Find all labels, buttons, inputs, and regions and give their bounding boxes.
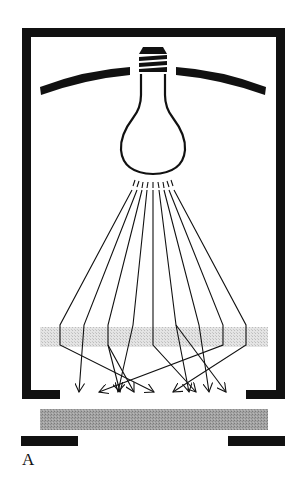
optical-setup-diagram — [0, 0, 303, 479]
ray-2 — [79, 190, 137, 392]
bulb-screw-base — [139, 47, 167, 72]
emission-ticks — [133, 180, 173, 188]
light-rays — [60, 190, 246, 392]
light-bulb — [121, 47, 185, 174]
frame-left-wall — [22, 28, 31, 399]
sample-plate — [40, 409, 268, 430]
stage-right-bar — [228, 436, 285, 446]
frame-right-wall — [276, 28, 285, 399]
ray-1 — [60, 190, 154, 392]
bulb-glass — [121, 74, 185, 174]
reflector-left-wing — [40, 67, 130, 95]
reflector-right-wing — [176, 67, 266, 95]
stage-left-bar — [21, 436, 78, 446]
ray-6 — [159, 190, 189, 392]
ray-7 — [164, 190, 209, 392]
diffuser-plate — [40, 327, 268, 347]
panel-label: A — [22, 451, 34, 468]
frame-left-foot — [22, 390, 60, 399]
ray-4 — [118, 190, 147, 392]
frame-right-foot — [246, 390, 285, 399]
ray-10 — [108, 345, 120, 392]
frame-top-wall — [22, 28, 285, 37]
